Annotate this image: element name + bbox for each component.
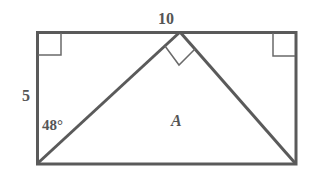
triangle-right-side bbox=[180, 32, 295, 163]
right-angle-marker-apex bbox=[165, 46, 195, 65]
right-angle-marker-top-right bbox=[273, 33, 295, 56]
side-length-label: 5 bbox=[22, 88, 30, 104]
region-label: A bbox=[171, 113, 182, 129]
right-angle-marker-top-left bbox=[38, 33, 61, 55]
triangle-left-side bbox=[38, 32, 180, 163]
angle-label: 48° bbox=[42, 118, 63, 133]
top-length-label: 10 bbox=[158, 11, 174, 27]
diagram-canvas bbox=[0, 0, 311, 176]
outer-rectangle bbox=[38, 33, 297, 165]
geometry-diagram: 10 5 48° A bbox=[0, 0, 311, 176]
